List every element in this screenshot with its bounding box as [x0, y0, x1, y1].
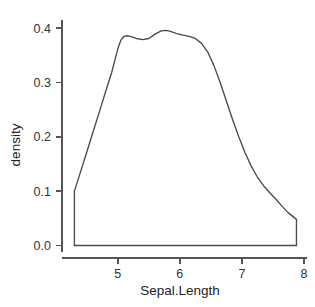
y-axis-group: 0.00.10.20.30.4 density [8, 20, 62, 253]
y-tick-label-0.3: 0.3 [34, 76, 51, 90]
x-tick-label-8: 8 [300, 267, 307, 281]
x-axis-title: Sepal.Length [140, 283, 220, 298]
y-tick-label-0.4: 0.4 [34, 22, 51, 36]
density-plot-container: 0.00.10.20.30.4 density 5678 Sepal.Lengt… [0, 0, 315, 307]
x-axis-tick-labels: 5678 [114, 267, 307, 281]
x-tick-label-7: 7 [238, 267, 245, 281]
x-axis-ticks [118, 258, 304, 264]
y-axis-ticks [56, 28, 62, 245]
y-axis-title: density [8, 123, 23, 166]
plot-area [74, 30, 296, 245]
y-tick-label-0.1: 0.1 [34, 185, 51, 199]
y-tick-label-0.0: 0.0 [34, 239, 51, 253]
density-curve [74, 30, 296, 245]
y-tick-label-0.2: 0.2 [34, 130, 51, 144]
x-axis-group: 5678 Sepal.Length [62, 258, 307, 298]
x-tick-label-5: 5 [114, 267, 121, 281]
density-chart: 0.00.10.20.30.4 density 5678 Sepal.Lengt… [0, 0, 315, 307]
y-axis-tick-labels: 0.00.10.20.30.4 [34, 22, 51, 253]
x-tick-label-6: 6 [176, 267, 183, 281]
